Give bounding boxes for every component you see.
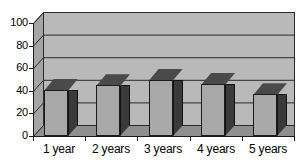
y-axis-tick (29, 91, 34, 92)
bar-front-face (253, 94, 277, 136)
bar-chart: 100806040200 1 year2 years3 years4 years… (0, 0, 306, 161)
bar-4 (201, 73, 225, 136)
bar-front-face (96, 85, 120, 136)
y-axis-tick (29, 23, 34, 24)
y-axis-tick (29, 68, 34, 69)
bar-3 (149, 69, 173, 137)
bar-front-face (201, 84, 225, 136)
bar-front-face (149, 80, 173, 137)
y-axis-tick-label: 80 (2, 40, 28, 51)
y-axis-tick-label: 100 (2, 17, 28, 28)
x-axis-tick-label: 1 year (33, 142, 85, 156)
bar-2 (96, 74, 120, 136)
x-axis-tick (137, 137, 138, 141)
x-axis-tick (85, 137, 86, 141)
y-axis-tick-label: 0 (2, 130, 28, 141)
x-axis-line (33, 136, 295, 137)
y-axis-tick-label: 20 (2, 107, 28, 118)
x-axis-tick-label: 2 years (85, 142, 137, 156)
x-axis-tick-label: 4 years (190, 142, 242, 156)
x-axis-tick (242, 137, 243, 141)
bar-5 (253, 83, 277, 136)
y-axis-tick (29, 113, 34, 114)
y-axis-line (33, 23, 34, 137)
y-axis-tick-label: 40 (2, 85, 28, 96)
x-axis-tick-label: 3 years (137, 142, 189, 156)
x-axis-tick (33, 137, 34, 141)
bar-front-face (44, 90, 68, 136)
x-axis-tick (190, 137, 191, 141)
x-axis-tick-label: 5 years (242, 142, 294, 156)
bar-1 (44, 79, 68, 136)
x-axis-tick (294, 137, 295, 141)
y-axis-tick (29, 46, 34, 47)
y-axis-tick-label: 60 (2, 62, 28, 73)
